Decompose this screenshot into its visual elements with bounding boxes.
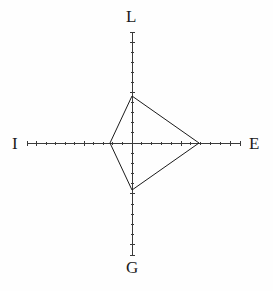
axes-group [27, 32, 240, 255]
axis-label-left: I [12, 135, 18, 152]
radar-plot-canvas [0, 0, 273, 291]
axis-label-top: L [126, 8, 136, 25]
axis-label-right: E [249, 135, 259, 152]
radar-chart: L E G I [0, 0, 273, 291]
axis-label-bottom: G [126, 259, 138, 276]
